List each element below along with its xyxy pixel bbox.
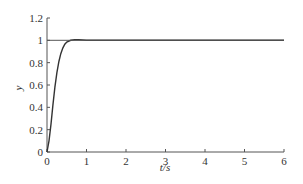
plot-series	[47, 40, 284, 152]
step-response-chart: 012345600.20.40.60.811.2 t/s y	[0, 0, 303, 184]
y-tick-label: 0.2	[29, 124, 43, 136]
x-tick-label: 4	[202, 155, 208, 167]
y-tick-label: 1.2	[29, 12, 43, 24]
y-tick-label: 0.8	[29, 57, 43, 69]
y-tick-label: 0	[38, 146, 44, 158]
x-tick-label: 2	[123, 155, 129, 167]
y-tick-label: 1	[38, 34, 44, 46]
axes: 012345600.20.40.60.811.2	[29, 12, 287, 167]
x-tick-label: 1	[84, 155, 90, 167]
y-tick-label: 0.4	[29, 101, 43, 113]
y-tick-label: 0.6	[29, 79, 43, 91]
response-curve	[47, 40, 284, 152]
x-tick-label: 0	[44, 155, 50, 167]
y-axis-label: y	[12, 85, 24, 91]
x-tick-label: 5	[242, 155, 248, 167]
x-axis-label: t/s	[160, 161, 170, 173]
x-tick-label: 6	[281, 155, 287, 167]
